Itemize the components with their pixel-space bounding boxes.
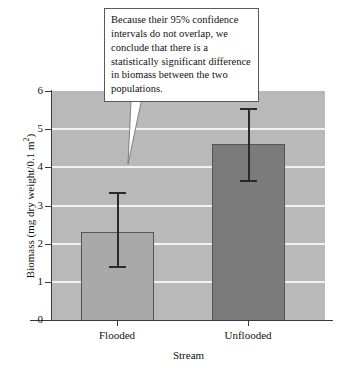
x-tick-label-flooded: Flooded	[57, 330, 177, 341]
y-tick-label-0: 0	[3, 314, 43, 325]
biomass-bar-chart: 6 5 4 3 2 1 0 Flooded Unflooded Biomass …	[0, 0, 343, 368]
callout-annotation: Because their 95% confidence intervals d…	[104, 8, 259, 102]
y-axis-line	[51, 90, 52, 321]
y-tick-2	[45, 244, 51, 245]
error-bar-flooded-cap-lower	[109, 266, 126, 268]
y-tick-0	[45, 320, 51, 321]
error-bar-unflooded-cap-upper	[240, 108, 257, 110]
error-bar-flooded-line	[117, 192, 119, 268]
x-axis-title: Stream	[52, 349, 325, 361]
y-axis-title-text: Biomass (mg dry weight/0.1 m	[24, 142, 36, 279]
y-tick-4	[45, 167, 51, 168]
error-bar-unflooded-cap-lower	[240, 180, 257, 182]
y-tick-6	[45, 91, 51, 92]
gridline-5	[52, 128, 325, 130]
y-axis-title: Biomass (mg dry weight/0.1 m2)	[24, 96, 36, 316]
y-tick-3	[45, 206, 51, 207]
y-tick-label-3: 3	[3, 200, 43, 211]
y-tick-label-2: 2	[3, 238, 43, 249]
x-tick-flooded	[117, 321, 118, 326]
y-tick-label-6: 6	[3, 85, 43, 96]
error-bar-flooded-cap-upper	[109, 192, 126, 194]
plot-area	[52, 91, 325, 320]
y-tick-label-1: 1	[3, 276, 43, 287]
y-axis-title-suffix: )	[24, 134, 36, 138]
y-tick-label-4: 4	[3, 161, 43, 172]
y-tick-5	[45, 129, 51, 130]
y-tick-1	[45, 282, 51, 283]
x-tick-unflooded	[248, 321, 249, 326]
y-tick-label-5: 5	[3, 123, 43, 134]
x-tick-label-unflooded: Unflooded	[188, 330, 308, 341]
error-bar-unflooded-line	[248, 108, 250, 181]
y-axis-title-exponent: 2	[22, 138, 31, 142]
x-axis-line	[30, 320, 333, 321]
